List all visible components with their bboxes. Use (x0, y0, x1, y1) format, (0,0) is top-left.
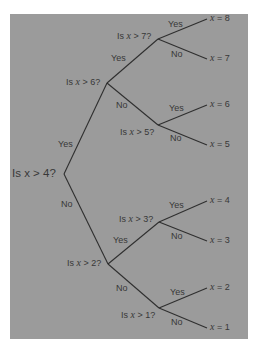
edge-q6-no (107, 83, 158, 125)
edge-q1-no (159, 308, 207, 328)
leaf-x-1: x = 1 (210, 322, 230, 332)
branch-label-yes: Yes (168, 19, 183, 29)
branch-label-yes: Yes (111, 53, 126, 63)
leaf-x-2: x = 2 (210, 282, 230, 292)
edge-root-yes (64, 83, 107, 174)
branch-label-no: No (170, 133, 182, 143)
branch-label-yes: Yes (169, 200, 184, 210)
node-question-gt3: Is x > 3? (119, 214, 153, 224)
leaf-x-4: x = 4 (210, 195, 230, 205)
edge-q3-no (159, 222, 207, 241)
edge-q5-no (158, 125, 207, 145)
leaf-x-7: x = 7 (210, 53, 230, 63)
branch-label-no: No (171, 49, 183, 59)
branch-label-yes: Yes (113, 235, 128, 245)
node-question-gt5: Is x > 5? (120, 127, 154, 137)
leaf-x-5: x = 5 (210, 139, 230, 149)
leaf-x-6: x = 6 (210, 99, 230, 109)
branch-label-no: No (116, 283, 128, 293)
node-question-gt2: Is x > 2? (67, 258, 101, 268)
node-question-gt1: Is x > 1? (121, 310, 155, 320)
node-question-gt7: Is x > 7? (117, 31, 151, 41)
leaf-x-3: x = 3 (210, 235, 230, 245)
branch-label-yes: Yes (170, 287, 185, 297)
branch-label-no: No (171, 231, 183, 241)
root-question: Is x > 4? (12, 167, 56, 179)
branch-label-yes: Yes (58, 139, 73, 149)
leaf-x-8: x = 8 (210, 13, 230, 23)
branch-label-no: No (171, 317, 183, 327)
branch-label-yes: Yes (169, 103, 184, 113)
edge-root-no (64, 174, 108, 264)
branch-label-no: No (116, 100, 128, 110)
node-question-gt6: Is x > 6? (66, 77, 100, 87)
branch-label-no: No (61, 199, 73, 209)
